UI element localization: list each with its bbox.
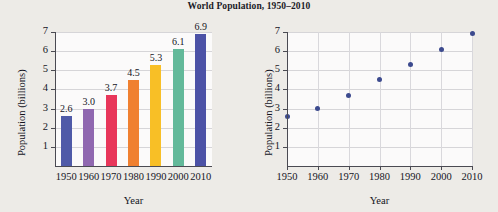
scatter-chart-figure: Population (billions) Year 7654321195019… bbox=[249, 0, 498, 212]
bar-chart-x-axis bbox=[55, 166, 212, 167]
scatter-chart-plot-area bbox=[287, 32, 472, 166]
bar-1970 bbox=[106, 95, 117, 166]
bar-chart-y-axis-title: Population (billions) bbox=[16, 69, 27, 156]
scatter-chart-y-tick-label: 7 bbox=[259, 25, 280, 36]
scatter-chart-y-tick-label: 6 bbox=[259, 44, 280, 55]
bar-chart-y-tick-label: 4 bbox=[27, 82, 48, 93]
scatter-point bbox=[346, 93, 351, 98]
scatter-chart-gridline-v bbox=[349, 32, 350, 166]
bar-chart-x-tick-label: 2010 bbox=[188, 171, 214, 182]
bar-chart-y-tick-label: 5 bbox=[27, 63, 48, 74]
bar-value-label: 3.7 bbox=[97, 82, 125, 93]
bar-chart-gridline bbox=[55, 51, 212, 52]
scatter-point bbox=[439, 47, 444, 52]
bar-value-label: 3.0 bbox=[75, 96, 103, 107]
scatter-chart-y-tick-label: 3 bbox=[259, 102, 280, 113]
bar-chart-y-tick-label: 3 bbox=[27, 102, 48, 113]
bar-chart-y-tick-label: 1 bbox=[27, 140, 48, 151]
bar-value-label: 6.9 bbox=[187, 21, 215, 32]
scatter-chart-x-tick-label: 1970 bbox=[335, 171, 363, 182]
bar-1990 bbox=[150, 65, 161, 166]
scatter-chart-y-tick-label: 1 bbox=[259, 140, 280, 151]
scatter-chart-gridline-v bbox=[318, 32, 319, 166]
scatter-chart-gridline-v bbox=[472, 32, 473, 166]
scatter-chart-x-tick-label: 1950 bbox=[273, 171, 301, 182]
scatter-point bbox=[408, 62, 413, 67]
bar-2010 bbox=[195, 34, 206, 166]
bar-value-label: 5.3 bbox=[142, 52, 170, 63]
bar-chart-y-tick-label: 6 bbox=[27, 44, 48, 55]
bar-chart-y-tick-label: 7 bbox=[27, 25, 48, 36]
bar-1960 bbox=[83, 109, 94, 166]
scatter-chart-x-tick-label: 1960 bbox=[304, 171, 332, 182]
scatter-chart-x-tick bbox=[472, 166, 473, 170]
scatter-point bbox=[315, 106, 320, 111]
scatter-chart-gridline-v bbox=[410, 32, 411, 166]
bar-1980 bbox=[128, 80, 139, 166]
scatter-point bbox=[377, 77, 382, 82]
bar-value-label: 6.1 bbox=[164, 36, 192, 47]
bar-chart-y-axis bbox=[55, 32, 56, 166]
scatter-chart-y-axis bbox=[287, 32, 288, 166]
scatter-chart-x-tick-label: 2010 bbox=[458, 171, 486, 182]
scatter-chart-x-axis-title: Year bbox=[287, 195, 472, 206]
bar-chart-figure: Population (billions) Year 76543212.6195… bbox=[0, 0, 249, 212]
scatter-chart-x-tick-label: 2000 bbox=[427, 171, 455, 182]
bar-2000 bbox=[173, 49, 184, 166]
bar-1950 bbox=[61, 116, 72, 166]
scatter-chart-x-tick-label: 1980 bbox=[366, 171, 394, 182]
scatter-chart-y-tick-label: 2 bbox=[259, 121, 280, 132]
scatter-chart-y-tick-label: 5 bbox=[259, 63, 280, 74]
scatter-chart-x-axis bbox=[287, 166, 472, 167]
scatter-chart-x-tick-label: 1990 bbox=[396, 171, 424, 182]
bar-chart-y-tick-label: 2 bbox=[27, 121, 48, 132]
scatter-chart-gridline-v bbox=[380, 32, 381, 166]
bar-chart-x-axis-title: Year bbox=[55, 195, 212, 206]
bar-value-label: 4.5 bbox=[120, 67, 148, 78]
figure-page: World Population, 1950–2010 Population (… bbox=[0, 0, 498, 212]
scatter-chart-y-tick-label: 4 bbox=[259, 82, 280, 93]
bar-chart-gridline bbox=[55, 32, 212, 33]
scatter-chart-gridline-v bbox=[441, 32, 442, 166]
scatter-point bbox=[470, 31, 475, 36]
